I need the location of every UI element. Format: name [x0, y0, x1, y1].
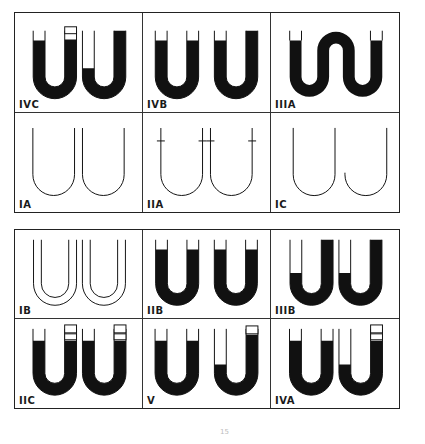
panel-ia: IA — [15, 113, 143, 213]
panel-label: IA — [19, 199, 31, 210]
panel-iia: IIA — [143, 113, 271, 213]
panel-iib: IIB — [143, 230, 271, 319]
panel-label: IIB — [147, 305, 164, 316]
panel-ib: IB — [15, 230, 143, 319]
panel-label: IIC — [19, 395, 35, 406]
panel-label: IIIA — [275, 99, 296, 110]
panel-iiib: IIIB — [271, 230, 399, 319]
panel-v: V — [143, 319, 271, 408]
panel-iva: IVA — [271, 319, 399, 408]
panel-label: IVA — [275, 395, 295, 406]
panel-ivb: IVB — [143, 13, 271, 113]
u-tube-pair-filled-icon — [143, 319, 270, 408]
u-tube-pair-filled-icon — [143, 13, 270, 112]
u-tube-pair-double-wall-icon — [15, 230, 142, 318]
panel-label: IB — [19, 305, 31, 316]
panel-ic: IC — [271, 113, 399, 213]
panel-iiia: IIIA — [271, 13, 399, 113]
panel-label: IC — [275, 199, 287, 210]
figure-caption: 15 — [220, 428, 229, 436]
panel-label: IVB — [147, 99, 168, 110]
u-tube-pair-marked-icon — [143, 113, 270, 213]
top-panel-grid: IVC IVB IIIA IA I — [14, 12, 400, 213]
panel-label: IVC — [19, 99, 39, 110]
u-tube-pair-empty-icon — [15, 113, 142, 213]
panel-label: IIIB — [275, 305, 296, 316]
u-tube-pair-uneven-icon — [271, 113, 399, 213]
panel-ivc: IVC — [15, 13, 143, 113]
panel-label: V — [147, 395, 155, 406]
bottom-panel-grid: IB IIB IIIB — [14, 229, 400, 409]
panel-iic: IIC — [15, 319, 143, 408]
w-tube-filled-icon — [271, 13, 399, 112]
panel-label: IIA — [147, 199, 164, 210]
u-tube-pair-filled-icon — [15, 13, 142, 112]
